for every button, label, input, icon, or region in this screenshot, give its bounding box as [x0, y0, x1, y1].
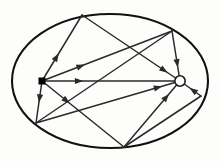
- directed-graph-svg: [0, 0, 221, 161]
- edge-source-to-top-arrowhead: [52, 53, 59, 62]
- figure-container: [0, 0, 221, 161]
- edge-bottom-to-sink: [124, 81, 180, 147]
- sink-node[interactable]: [175, 76, 185, 86]
- edge-source-to-lower-left-arrowhead: [37, 94, 43, 103]
- edge-right-to-sink-arrowhead: [189, 88, 198, 95]
- edge-source-to-top-right: [42, 31, 172, 81]
- edge-top-to-sink-arrowhead: [159, 65, 168, 72]
- edge-top-right-to-sink-arrowhead: [173, 59, 179, 68]
- edge-top-right-to-lower-left: [36, 31, 172, 123]
- edge-lower-left-to-sink-arrowhead: [153, 86, 162, 92]
- edge-source-to-sink-arrowhead: [75, 78, 84, 84]
- source-node[interactable]: [39, 78, 46, 85]
- edge-top-right-to-sink: [172, 31, 180, 81]
- edge-source-to-top-right-arrowhead: [76, 65, 85, 71]
- edge-source-to-top: [42, 15, 82, 81]
